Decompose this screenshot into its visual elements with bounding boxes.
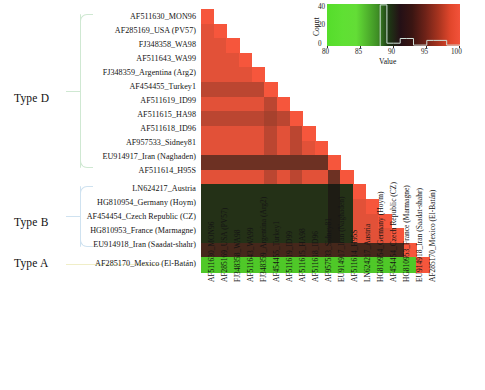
column-label: AF511619_ID99 [285, 231, 294, 282]
bracket-spine [80, 186, 81, 247]
heatmap-cell [264, 111, 277, 126]
value-axis-label: Value [379, 57, 396, 66]
heatmap-cell [315, 184, 328, 199]
column-label: EU914917_Iran (Naghaden) [337, 196, 346, 282]
row-label: AF511615_HA98 [137, 110, 196, 119]
histogram-outline [380, 5, 460, 46]
heatmap-cell [214, 38, 227, 53]
heatmap-cell [201, 126, 214, 141]
column-label: AF957533_Sidney81 [324, 218, 333, 282]
heatmap-cell [239, 199, 252, 214]
row-label: AF957533_Sidney81 [126, 138, 196, 147]
heatmap-cell [201, 155, 214, 170]
value-tick: 80 [322, 48, 329, 56]
value-tick: 85 [355, 48, 362, 56]
group-label-type-b: Type B [14, 216, 49, 228]
value-tick: 95 [421, 48, 428, 56]
heatmap-cell [252, 82, 265, 97]
heatmap-cell [340, 170, 353, 185]
heatmap-cell [239, 97, 252, 112]
value-tickmark [426, 46, 427, 48]
heatmap-cell [214, 82, 227, 97]
heatmap-cell [302, 199, 315, 214]
column-label: EU914918_Iran (Saadat-shahr) [415, 188, 424, 282]
heatmap-cell [353, 199, 366, 214]
heatmap-cell [226, 82, 239, 97]
heatmap-cell [252, 97, 265, 112]
heatmap-cell [277, 97, 290, 112]
bracket-cap-bottom [80, 239, 93, 247]
heatmap-cell [226, 126, 239, 141]
heatmap-cell [214, 53, 227, 68]
row-label: AF511643_WA99 [136, 54, 196, 63]
value-tickmark [459, 46, 460, 48]
column-label: AF511614_H95S [350, 229, 359, 282]
heatmap-cell [277, 155, 290, 170]
row-label: HG810954_Germany (Hoym) [97, 198, 196, 207]
heatmap-cell [239, 184, 252, 199]
heatmap-cell [214, 67, 227, 82]
row-label: EU914918_Iran (Saadat-shahr) [93, 240, 196, 249]
heatmap-cell [290, 170, 303, 185]
heatmap-cell [226, 67, 239, 82]
heatmap-cell [315, 170, 328, 185]
bracket-cap-top [80, 14, 93, 22]
bracket-stub [66, 91, 80, 92]
heatmap-cell [201, 38, 214, 53]
heatmap-cell [277, 199, 290, 214]
heatmap-cell [214, 141, 227, 156]
heatmap-cell [264, 155, 277, 170]
column-label: AF511618_ID96 [311, 231, 320, 282]
heatmap-cell [302, 170, 315, 185]
heatmap-cell [201, 97, 214, 112]
heatmap-cell [328, 170, 341, 185]
heatmap-cell [239, 126, 252, 141]
heatmap-cell [201, 184, 214, 199]
heatmap-cell [277, 184, 290, 199]
column-label: AF511615_HA98 [298, 228, 307, 282]
row-label: AF511630_MON96 [130, 12, 196, 21]
value-tickmark [393, 46, 394, 48]
histogram-overlay [327, 4, 460, 46]
heatmap-cell [226, 170, 239, 185]
heatmap-cell [201, 141, 214, 156]
heatmap-cell [252, 155, 265, 170]
heatmap-cell [277, 170, 290, 185]
heatmap-cell [290, 214, 303, 229]
value-tick: 90 [388, 48, 395, 56]
heatmap-cell [201, 199, 214, 214]
row-label: EU914917_Iran (Naghaden) [102, 152, 196, 161]
bracket-type-d [80, 14, 92, 168]
heatmap-cell [277, 126, 290, 141]
heatmap-cell [264, 82, 277, 97]
heatmap-cell [214, 97, 227, 112]
heatmap-cell [328, 155, 341, 170]
count-axis-label: Count [312, 17, 321, 36]
heatmap-cell [252, 67, 265, 82]
row-label: FJ348358_WA98 [139, 40, 196, 49]
heatmap-cell [290, 111, 303, 126]
heatmap-cell [239, 141, 252, 156]
heatmap-cell [226, 97, 239, 112]
heatmap-cell [315, 199, 328, 214]
heatmap-cell [214, 155, 227, 170]
heatmap-cell [302, 141, 315, 156]
heatmap-cell [214, 24, 227, 39]
heatmap-cell [201, 9, 214, 24]
column-label: LN624217_Austria [363, 224, 372, 282]
heatmap-cell [201, 53, 214, 68]
heatmap-cell [264, 141, 277, 156]
heatmap-cell [226, 184, 239, 199]
heatmap-figure: Type D Type B Type A AF511630_MON96 AF28… [0, 0, 485, 390]
heatmap-cell [264, 170, 277, 185]
heatmap-cell [201, 24, 214, 39]
bracket-spine [80, 14, 81, 168]
heatmap-cell [201, 111, 214, 126]
column-label: AF511630_MON96 [207, 222, 216, 282]
heatmap-cell [239, 111, 252, 126]
heatmap-cell [264, 97, 277, 112]
bracket-stub [66, 216, 80, 217]
heatmap-cell [239, 155, 252, 170]
heatmap-cell [290, 155, 303, 170]
heatmap-cell [315, 141, 328, 156]
